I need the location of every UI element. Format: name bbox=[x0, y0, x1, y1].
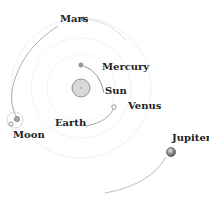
venus-orbit-arc bbox=[86, 108, 114, 126]
earth-label: Earth bbox=[55, 118, 86, 128]
jupiter-orbit-arc bbox=[105, 157, 166, 193]
moon-icon bbox=[9, 122, 13, 126]
jupiter-icon bbox=[167, 148, 176, 157]
orbit-drawing bbox=[0, 0, 209, 211]
venus-icon bbox=[112, 105, 116, 109]
earth-icon bbox=[14, 116, 19, 121]
moon-label: Moon bbox=[13, 130, 45, 140]
jupiter-label: Jupiter bbox=[172, 133, 209, 143]
venus-label: Venus bbox=[128, 101, 161, 111]
mars-label: Mars bbox=[60, 14, 88, 24]
mercury-icon bbox=[79, 63, 83, 67]
sun-label: Sun bbox=[105, 86, 127, 96]
mercury-label: Mercury bbox=[102, 62, 149, 72]
solar-system-diagram: Mars Mercury Sun Venus Earth Moon Jupite… bbox=[0, 0, 209, 211]
sun-center-icon bbox=[80, 87, 82, 89]
